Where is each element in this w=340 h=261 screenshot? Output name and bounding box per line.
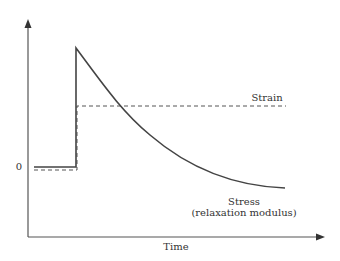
stress-curve xyxy=(34,48,285,188)
stress-sublabel: (relaxation modulus) xyxy=(191,207,296,218)
x-axis-arrow-icon xyxy=(316,234,325,241)
strain-label: Strain xyxy=(251,92,283,103)
stress-label: Stress xyxy=(228,196,260,207)
y-zero-tick-label: 0 xyxy=(16,161,22,172)
x-axis-label: Time xyxy=(163,241,188,252)
y-axis-arrow-icon xyxy=(25,19,32,28)
stress-relaxation-diagram: 0 Strain Stress (relaxation modulus) Tim… xyxy=(0,0,340,261)
strain-curve xyxy=(34,106,286,170)
